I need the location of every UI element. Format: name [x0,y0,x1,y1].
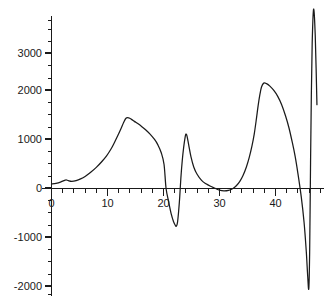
y-label-0: 0 [36,182,42,194]
data-series-group [52,9,317,289]
y-label-neg1000: -1000 [14,231,42,243]
y-label-1000: 1000 [18,133,42,145]
data-curve-series-1 [52,9,317,289]
x-label-40: 40 [269,197,281,209]
y-axis-tick-labels: 3000 2000 1000 0 -1000 -2000 [14,47,42,292]
y-label-3000: 3000 [18,47,42,59]
line-chart: 3000 2000 1000 0 -1000 -2000 [0,0,329,303]
y-axis-major-ticks [45,53,52,286]
x-axis-group: 0 10 20 30 40 [42,189,324,210]
y-label-2000: 2000 [18,84,42,96]
x-label-0: 0 [48,197,54,209]
y-axis-group: 3000 2000 1000 0 -1000 -2000 [14,16,52,296]
x-label-30: 30 [213,197,225,209]
x-axis-tick-labels: 0 10 20 30 40 [48,197,281,209]
x-label-10: 10 [101,197,113,209]
chart-figure: 3000 2000 1000 0 -1000 -2000 [0,0,329,303]
x-axis-minor-ticks [63,189,321,194]
y-axis-minor-ticks [48,20,52,294]
y-label-neg2000: -2000 [14,280,42,292]
